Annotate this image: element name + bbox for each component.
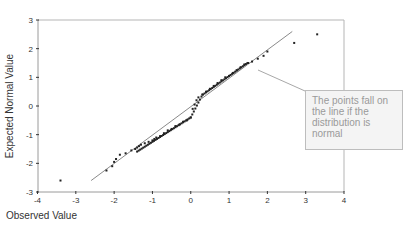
x-tick-label: -3 <box>72 196 80 205</box>
x-tick-label: 1 <box>227 196 232 205</box>
data-point <box>119 154 121 156</box>
data-point <box>111 165 113 167</box>
data-point <box>134 148 136 150</box>
y-tick-label: -3 <box>26 188 34 197</box>
data-point <box>105 170 107 172</box>
data-point <box>148 141 150 143</box>
x-tick-label: -1 <box>149 196 157 205</box>
data-point <box>130 149 132 151</box>
data-point <box>138 145 140 147</box>
reference-line <box>91 31 292 180</box>
annotation-callout: The points fall on the line if the distr… <box>305 90 403 150</box>
data-point <box>192 108 194 110</box>
data-point <box>136 147 138 149</box>
expected-normal-line <box>91 31 292 180</box>
data-point <box>263 55 265 57</box>
data-point <box>191 113 193 115</box>
x-axis-ticks: -4-3-2-101234 <box>34 191 347 205</box>
data-point <box>193 111 195 113</box>
data-point <box>195 99 197 101</box>
data-point <box>144 142 146 144</box>
data-point <box>246 62 248 64</box>
data-point <box>316 33 318 35</box>
data-point <box>125 152 127 154</box>
x-tick-label: 4 <box>342 196 347 205</box>
data-point <box>199 99 201 101</box>
y-tick-label: 3 <box>29 16 34 25</box>
y-tick-label: -1 <box>26 131 34 140</box>
data-point <box>266 51 268 53</box>
data-point <box>293 42 295 44</box>
x-axis-title: Observed Value <box>6 210 77 221</box>
data-point <box>115 158 117 160</box>
x-tick-label: -4 <box>34 196 42 205</box>
y-tick-label: 2 <box>29 45 34 54</box>
y-tick-label: -2 <box>26 159 34 168</box>
data-points <box>59 33 318 181</box>
data-point <box>140 144 142 146</box>
data-point <box>197 102 199 104</box>
data-point <box>200 96 202 98</box>
x-tick-label: 3 <box>303 196 308 205</box>
x-tick-label: -2 <box>111 196 119 205</box>
y-axis-title: Expected Normal Value <box>4 53 15 158</box>
data-point <box>190 116 192 118</box>
data-point <box>194 104 196 106</box>
data-point <box>197 96 199 98</box>
data-point <box>196 105 198 107</box>
data-point <box>113 161 115 163</box>
data-point <box>59 180 61 182</box>
x-tick-label: 2 <box>265 196 270 205</box>
data-point <box>194 108 196 110</box>
y-tick-label: 0 <box>29 102 34 111</box>
data-point <box>251 61 253 63</box>
callout-leader-line <box>258 70 305 91</box>
callout-text: The points fall on the line if the distr… <box>312 95 388 139</box>
data-point <box>257 58 259 60</box>
y-tick-label: 1 <box>29 73 34 82</box>
x-tick-label: 0 <box>189 196 194 205</box>
y-axis-ticks: 3210-1-2-3 <box>26 16 39 197</box>
